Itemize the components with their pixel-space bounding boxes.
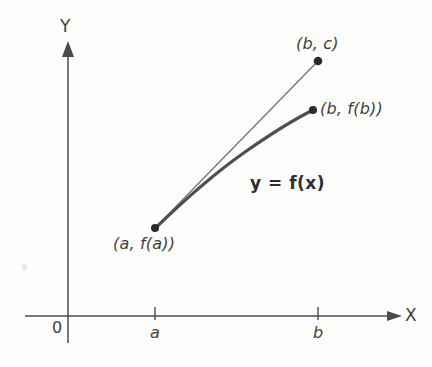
scan-speck <box>22 263 27 271</box>
y-axis-arrowhead <box>62 41 74 57</box>
point-label-b-c: (b, c) <box>296 36 339 52</box>
function-curve <box>156 110 314 228</box>
x-axis-label: X <box>405 307 417 324</box>
origin-label: 0 <box>52 320 62 336</box>
secant-line <box>156 62 317 227</box>
x-tick-label-a: a <box>150 325 160 341</box>
point-dot-b-fb <box>309 106 317 114</box>
point-label-b-fb: (b, f(b)) <box>320 101 383 117</box>
function-equation-label: y = f(x) <box>250 175 325 192</box>
x-axis-arrowhead <box>387 311 402 321</box>
y-axis-label: Y <box>60 18 70 35</box>
point-dot-b-c <box>314 57 323 66</box>
diagram-canvas <box>0 0 432 367</box>
point-label-a-fa: (a, f(a)) <box>113 236 175 252</box>
x-tick-label-b: b <box>313 325 323 341</box>
calculus-diagram: Y X 0 a b (b, c) (b, f(b)) (a, f(a)) y =… <box>0 0 432 367</box>
point-dot-a-fa <box>151 224 159 232</box>
